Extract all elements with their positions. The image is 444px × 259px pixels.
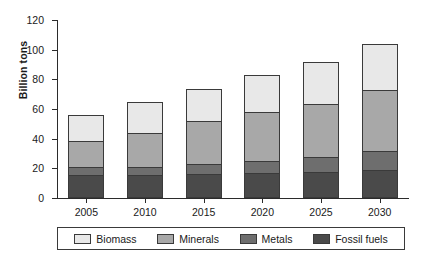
- legend-item-biomass[interactable]: Biomass: [74, 233, 136, 245]
- x-axis-tick: [380, 198, 381, 203]
- bar-segment-fossil_fuels[interactable]: [127, 175, 163, 198]
- chart-legend: BiomassMineralsMetalsFossil fuels: [57, 227, 405, 250]
- x-axis-tick-label: 2025: [309, 206, 332, 218]
- bar-segment-minerals[interactable]: [186, 121, 222, 165]
- bar-segment-biomass[interactable]: [68, 115, 104, 141]
- bar-segment-minerals[interactable]: [362, 90, 398, 152]
- legend-swatch-icon: [240, 234, 257, 244]
- bar-segment-fossil_fuels[interactable]: [362, 170, 398, 198]
- y-axis-tick: 40: [52, 139, 57, 140]
- bar-2015[interactable]: [186, 90, 222, 198]
- y-axis-tick: 60: [52, 109, 57, 110]
- bar-segment-minerals[interactable]: [244, 112, 280, 162]
- x-axis-tick: [204, 198, 205, 203]
- bar-2010[interactable]: [127, 103, 163, 198]
- bar-segment-fossil_fuels[interactable]: [186, 174, 222, 198]
- bar-segment-minerals[interactable]: [303, 104, 339, 158]
- bar-segment-metals[interactable]: [362, 151, 398, 171]
- y-axis-tick: 80: [52, 79, 57, 80]
- y-axis-tick-label: 20: [4, 162, 44, 174]
- x-axis-tick-label: 2010: [133, 206, 156, 218]
- bar-segment-biomass[interactable]: [127, 102, 163, 134]
- y-axis-tick: 0: [52, 198, 57, 199]
- x-axis-tick: [321, 198, 322, 203]
- x-axis-tick-label: 2020: [251, 206, 274, 218]
- bar-segment-fossil_fuels[interactable]: [303, 172, 339, 198]
- stacked-bar-chart: Billion tons 020406080100120 20052010201…: [0, 0, 444, 259]
- y-axis-tick-label: 0: [4, 192, 44, 204]
- bar-segment-minerals[interactable]: [127, 133, 163, 168]
- bar-segment-fossil_fuels[interactable]: [68, 175, 104, 198]
- x-axis-tick: [86, 198, 87, 203]
- bar-segment-metals[interactable]: [68, 167, 104, 175]
- legend-swatch-icon: [313, 234, 330, 244]
- legend-item-metals[interactable]: Metals: [240, 233, 293, 245]
- bar-segment-minerals[interactable]: [68, 141, 104, 169]
- x-axis-tick-label: 2030: [368, 206, 391, 218]
- bar-segment-fossil_fuels[interactable]: [244, 173, 280, 198]
- bar-segment-biomass[interactable]: [244, 75, 280, 113]
- bar-segment-biomass[interactable]: [362, 44, 398, 91]
- legend-label: Biomass: [96, 233, 136, 245]
- legend-label: Fossil fuels: [335, 233, 388, 245]
- y-axis-tick-label: 120: [4, 14, 44, 26]
- y-axis-tick-label: 40: [4, 133, 44, 145]
- legend-item-minerals[interactable]: Minerals: [157, 233, 219, 245]
- x-axis-tick-label: 2005: [75, 206, 98, 218]
- legend-item-fossil-fuels[interactable]: Fossil fuels: [313, 233, 388, 245]
- legend-label: Minerals: [179, 233, 219, 245]
- bar-segment-metals[interactable]: [303, 157, 339, 173]
- bar-2025[interactable]: [303, 63, 339, 198]
- legend-swatch-icon: [157, 234, 174, 244]
- x-axis-tick-label: 2015: [192, 206, 215, 218]
- bar-segment-biomass[interactable]: [303, 62, 339, 105]
- x-axis-tick: [262, 198, 263, 203]
- bar-segment-metals[interactable]: [244, 161, 280, 174]
- bar-segment-biomass[interactable]: [186, 89, 222, 123]
- y-axis-tick: 100: [52, 50, 57, 51]
- plot-area: 020406080100120 200520102015202020252030: [57, 20, 409, 198]
- bar-segment-metals[interactable]: [127, 167, 163, 175]
- x-axis-tick: [145, 198, 146, 203]
- y-axis-tick: 120: [52, 20, 57, 21]
- bar-2030[interactable]: [362, 45, 398, 198]
- bar-2020[interactable]: [244, 76, 280, 198]
- legend-swatch-icon: [74, 234, 91, 244]
- y-axis-tick: 20: [52, 168, 57, 169]
- y-axis-tick-label: 80: [4, 73, 44, 85]
- legend-label: Metals: [262, 233, 293, 245]
- bar-2005[interactable]: [68, 116, 104, 198]
- x-axis-line: [57, 198, 409, 199]
- y-axis-tick-label: 60: [4, 103, 44, 115]
- y-axis-tick-label: 100: [4, 44, 44, 56]
- bar-segment-metals[interactable]: [186, 164, 222, 175]
- y-axis-line: [57, 20, 58, 198]
